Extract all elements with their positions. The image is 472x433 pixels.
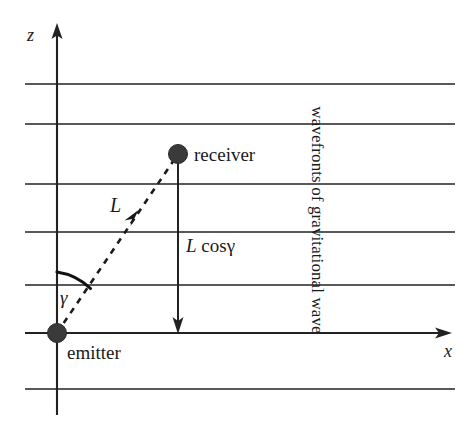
emitter-label: emitter <box>67 343 121 362</box>
baseline-segment <box>57 154 178 333</box>
z-axis <box>52 23 63 415</box>
emitter-node[interactable] <box>48 324 67 343</box>
projection-measure-line <box>173 160 184 334</box>
angle-label: γ <box>60 288 68 307</box>
x-axis <box>25 328 452 339</box>
diagram-canvas <box>0 0 472 433</box>
gravitational-wave-diagram: z x receiver emitter L L cosγ γ wavefron… <box>0 0 472 433</box>
projection-length-label: L cosγ <box>186 236 235 255</box>
projection-length-label-function: cosγ <box>201 235 235 256</box>
wavefront-caption: wavefronts of gravitational wave <box>307 106 327 333</box>
x-axis-label: x <box>444 342 452 360</box>
receiver-node[interactable] <box>169 145 188 164</box>
baseline-dashed-line <box>57 154 178 333</box>
baseline-arrowhead <box>125 210 139 227</box>
baseline-length-label: L <box>110 195 121 215</box>
receiver-label: receiver <box>194 145 255 164</box>
z-axis-label: z <box>27 26 34 44</box>
projection-length-label-variable: L <box>186 235 197 256</box>
